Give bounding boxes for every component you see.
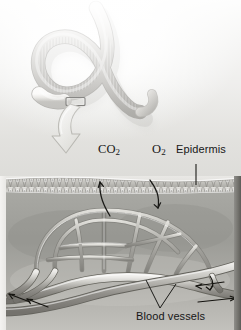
label-blood-vessels: Blood vessels: [136, 310, 205, 322]
plate-edge-left: [0, 176, 6, 330]
figure-earthworm-gas-exchange: CO2 O2 Epidermis Blood vessels: [0, 0, 241, 330]
label-co2-subscript: 2: [116, 147, 121, 157]
label-o2: O2: [152, 142, 166, 157]
cross-section-panel: [0, 176, 241, 330]
label-o2-text: O: [152, 142, 161, 156]
label-epidermis: Epidermis: [176, 143, 226, 155]
label-o2-subscript: 2: [161, 147, 166, 157]
epidermis-layer: [0, 177, 241, 194]
plate-edge-right: [234, 176, 241, 330]
label-co2-text: CO: [98, 142, 116, 156]
cross-section-illustration: [0, 176, 241, 330]
label-co2: CO2: [98, 142, 120, 157]
